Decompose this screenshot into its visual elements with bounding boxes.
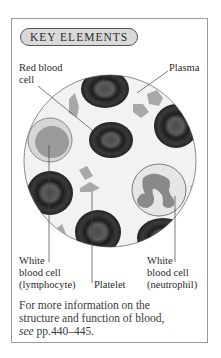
red-blood-cell <box>89 122 133 158</box>
label-platelet: Platelet <box>94 279 126 291</box>
label-red-blood-cell: Red blood cell <box>19 62 62 86</box>
see-word: see <box>19 325 34 337</box>
cross-reference-note: For more information on the structure an… <box>19 299 204 338</box>
page-reference: pp.440–445. <box>34 325 94 337</box>
label-plasma: Plasma <box>169 62 199 74</box>
label-neutrophil: White blood cell (neutrophil) <box>147 255 197 291</box>
label-lymphocyte: White blood cell (lymphocyte) <box>19 255 76 291</box>
